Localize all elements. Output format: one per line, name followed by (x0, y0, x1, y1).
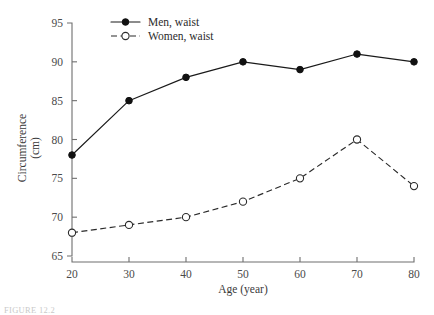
y-axis-title-line2: (cm) (29, 137, 42, 159)
data-point-marker (410, 183, 417, 190)
series-line (72, 140, 414, 233)
y-axis-title: Circumference (cm) (16, 114, 42, 182)
x-axis-ticks (129, 257, 357, 262)
x-axis-tick-labels: 20304050607080 (66, 268, 420, 280)
legend-label: Men, waist (148, 16, 200, 29)
legend-label: Women, waist (148, 30, 214, 43)
data-point-marker (411, 59, 418, 66)
series-line (72, 54, 414, 155)
x-tick-label: 60 (294, 268, 306, 280)
data-point-marker (69, 152, 76, 159)
data-point-marker (239, 198, 246, 205)
y-tick-label: 70 (52, 211, 64, 223)
legend-marker-sample (122, 32, 129, 39)
legend-entry: Women, waist (111, 30, 214, 43)
chart-legend: Men, waistWomen, waist (111, 16, 214, 43)
y-tick-label: 85 (52, 95, 64, 107)
y-axis-title-line1: Circumference (16, 114, 28, 182)
figure-container: 65707580859095 20304050607080 Circumfere… (0, 0, 434, 315)
x-tick-label: 20 (66, 268, 78, 280)
x-tick-label: 30 (123, 268, 135, 280)
y-axis-ticks (72, 62, 77, 217)
data-point-marker (125, 221, 132, 228)
data-point-marker (353, 136, 360, 143)
x-tick-label: 70 (351, 268, 363, 280)
data-point-marker (126, 97, 133, 104)
legend-marker-sample (122, 19, 129, 26)
y-axis-line (67, 23, 72, 256)
series-layer (68, 51, 417, 237)
figure-caption: FIGURE 12.2 (4, 305, 55, 315)
data-point-marker (240, 59, 247, 66)
x-tick-label: 40 (180, 268, 192, 280)
x-axis-title: Age (year) (218, 283, 268, 296)
data-point-marker (182, 214, 189, 221)
data-point-marker (297, 66, 304, 73)
y-tick-label: 80 (52, 134, 64, 146)
y-tick-label: 90 (52, 56, 64, 68)
x-tick-label: 50 (237, 268, 249, 280)
y-axis-tick-labels: 65707580859095 (52, 17, 64, 262)
x-tick-label: 80 (408, 268, 420, 280)
data-series (69, 51, 418, 159)
line-chart: 65707580859095 20304050607080 Circumfere… (0, 0, 434, 315)
data-point-marker (183, 74, 190, 81)
y-tick-label: 95 (52, 17, 64, 29)
data-point-marker (68, 229, 75, 236)
data-series (68, 136, 417, 236)
y-tick-label: 65 (52, 250, 64, 262)
legend-entry: Men, waist (111, 16, 200, 29)
data-point-marker (296, 175, 303, 182)
y-tick-label: 75 (52, 172, 64, 184)
data-point-marker (354, 51, 361, 58)
